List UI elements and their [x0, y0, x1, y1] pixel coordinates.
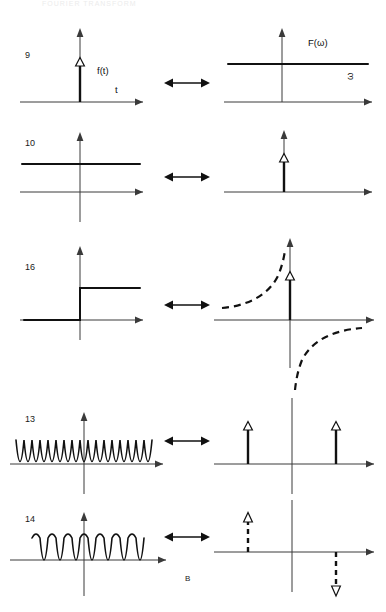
row-10-equivalence-arrow — [163, 170, 211, 184]
row-13-time-svg — [8, 398, 198, 498]
row-9-freq-function-label: F(ω) — [308, 37, 328, 48]
transform-pair-row-14: 14 — [0, 500, 386, 610]
row-13-freq-svg — [212, 398, 384, 498]
row-14-freq-plot — [212, 500, 384, 610]
transform-pair-row-10: 10 — [0, 126, 386, 224]
figure-caption: B — [185, 574, 191, 583]
transform-pair-row-9: 9 f(t) t — [0, 18, 386, 114]
row-9-time-axis-label: t — [115, 84, 118, 95]
figure-sheet: FOURIER TRANSFORM 9 f(t) t — [0, 0, 386, 612]
row-14-equivalence-arrow — [163, 530, 211, 544]
ghost-header-text: FOURIER TRANSFORM — [42, 0, 137, 7]
row-16-freq-svg — [212, 232, 384, 372]
transform-pair-row-13: 13 — [0, 398, 386, 498]
row-14-freq-svg — [212, 500, 384, 610]
row-10-freq-plot — [222, 126, 382, 224]
row-13-time-plot — [8, 398, 198, 498]
row-16-time-svg — [18, 232, 168, 362]
row-16-freq-plot — [212, 232, 384, 372]
row-9-equivalence-arrow — [163, 76, 211, 90]
double-arrow-icon — [163, 530, 211, 544]
row-9-time-svg — [18, 22, 168, 114]
row-10-time-plot — [18, 126, 168, 224]
row-9-freq-axis-label: ω — [344, 73, 355, 80]
row-10-freq-svg — [222, 126, 382, 224]
transform-pair-row-16: 16 — [0, 232, 386, 372]
double-arrow-icon — [163, 298, 211, 312]
row-9-freq-plot: F(ω) ω — [222, 22, 382, 114]
row-10-time-svg — [18, 126, 168, 224]
double-arrow-icon — [163, 170, 211, 184]
row-9-time-plot: f(t) t — [18, 22, 168, 114]
double-arrow-icon — [163, 76, 211, 90]
row-16-equivalence-arrow — [163, 298, 211, 312]
row-9-freq-svg — [222, 22, 382, 114]
row-13-equivalence-arrow — [163, 434, 211, 448]
row-13-freq-plot — [212, 398, 384, 498]
double-arrow-icon — [163, 434, 211, 448]
row-9-function-label: f(t) — [97, 65, 109, 76]
row-14-time-svg — [8, 500, 198, 605]
row-14-time-plot — [8, 500, 198, 605]
row-16-time-plot — [18, 232, 168, 362]
